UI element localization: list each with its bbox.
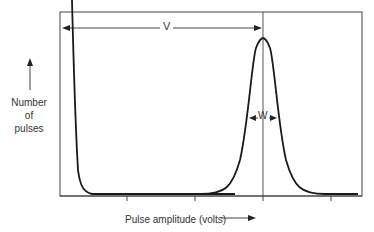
w-arrow-left-head	[249, 115, 256, 121]
y-axis-label: Number of pulses	[4, 96, 54, 135]
w-arrow-right-head	[270, 115, 277, 121]
photopeak-curve	[200, 38, 358, 194]
plot-frame	[60, 12, 362, 196]
w-marker-label: W	[258, 110, 267, 121]
noise-spike-curve	[72, 0, 235, 194]
v-arrow-right-head	[254, 25, 262, 31]
y-label-line-2: of	[4, 109, 54, 122]
v-arrow-left-head	[62, 25, 70, 31]
x-ticks	[127, 196, 331, 201]
v-marker-label: V	[160, 20, 173, 32]
y-label-line-1: Number	[4, 96, 54, 109]
y-label-line-3: pulses	[4, 122, 54, 135]
pulse-height-spectrum	[0, 0, 374, 232]
x-arrow-head	[248, 215, 256, 221]
x-axis-label: Pulse amplitude (volts)	[125, 214, 226, 225]
y-arrow-head	[27, 58, 33, 66]
